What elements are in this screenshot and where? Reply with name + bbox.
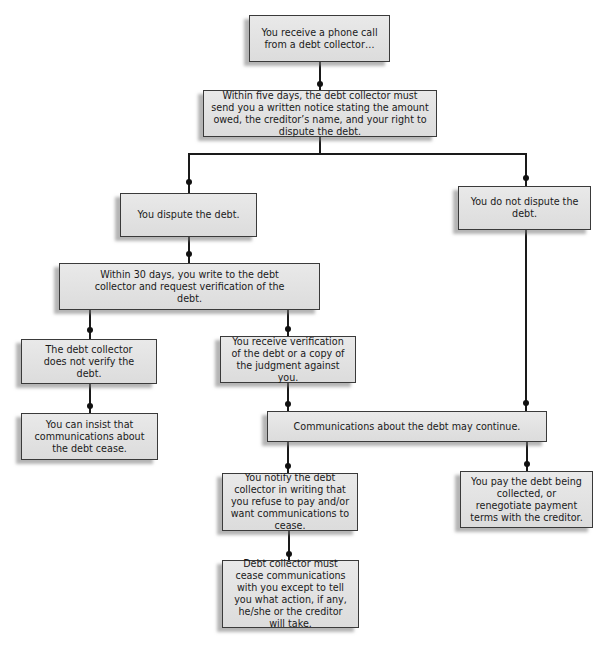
node-written-notice: Within five days, the debt collector mus… <box>203 90 437 137</box>
node-verification-received: You receive verification of the debt or … <box>220 336 356 383</box>
connector-dot <box>87 403 93 409</box>
node-text: You pay the debt being collected, or ren… <box>469 476 584 524</box>
connector-dot <box>285 463 291 469</box>
connector-line <box>525 153 527 186</box>
node-must-cease: Debt collector must cease communications… <box>222 560 359 628</box>
connector-line <box>188 237 190 263</box>
connector-dot <box>523 400 529 406</box>
node-request-verification: Within 30 days, you write to the debt co… <box>59 263 320 310</box>
node-text: Within five days, the debt collector mus… <box>210 90 430 138</box>
connector-line <box>188 153 190 193</box>
connector-dot <box>523 175 529 181</box>
node-may-continue: Communications about the debt may contin… <box>267 411 547 442</box>
node-no-dispute: You do not dispute the debt. <box>458 186 591 230</box>
node-text: You do not dispute the debt. <box>462 196 587 220</box>
connector-dot <box>285 401 291 407</box>
connector-dot <box>317 81 323 87</box>
node-pay-debt: You pay the debt being collected, or ren… <box>460 471 593 528</box>
node-text: Communications about the debt may contin… <box>294 421 521 433</box>
node-dispute: You dispute the debt. <box>120 193 257 237</box>
node-text: You notify the debt collector in writing… <box>227 472 353 532</box>
connector-dot <box>186 251 192 257</box>
connector-dot <box>285 326 291 332</box>
node-text: You receive a phone call from a debt col… <box>260 27 379 51</box>
node-insist-cease: You can insist that communications about… <box>21 413 158 460</box>
node-notify-refuse: You notify the debt collector in writing… <box>222 473 358 531</box>
connector-line <box>287 310 289 336</box>
connector-dot <box>186 179 192 185</box>
connector-line <box>525 230 527 411</box>
connector-dot <box>87 327 93 333</box>
node-text: Debt collector must cease communications… <box>231 558 350 630</box>
node-phone-call: You receive a phone call from a debt col… <box>249 15 390 62</box>
node-not-verified: The debt collector does not verify the d… <box>21 339 157 384</box>
node-text: Within 30 days, you write to the debt co… <box>90 269 289 305</box>
connector-dot <box>286 551 292 557</box>
connector-dot <box>524 461 530 467</box>
connector-line <box>319 137 321 154</box>
node-text: You receive verification of the debt or … <box>229 336 347 384</box>
node-text: You dispute the debt. <box>138 209 240 221</box>
node-text: The debt collector does not verify the d… <box>36 344 142 380</box>
connector-line <box>188 153 526 155</box>
node-text: You can insist that communications about… <box>30 419 149 455</box>
connector-line <box>89 310 91 339</box>
